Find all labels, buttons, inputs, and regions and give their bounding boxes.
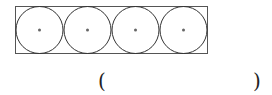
circle-center-dot-2 (86, 29, 89, 32)
circles-group (16, 7, 207, 54)
circle-center-dot-4 (182, 29, 185, 32)
circle-center-dot-1 (38, 29, 41, 32)
rectangle-with-four-circles-figure (0, 0, 272, 60)
circle-center-dot-3 (134, 29, 137, 32)
answer-open-paren: ( (98, 69, 106, 93)
answer-close-paren: ) (253, 69, 261, 93)
